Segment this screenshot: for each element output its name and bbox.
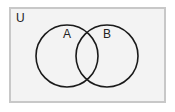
universe-label: U <box>16 11 25 25</box>
universe-rectangle <box>10 8 165 102</box>
set-a-label: A <box>63 27 71 41</box>
venn-svg: U A B <box>0 0 175 112</box>
venn-diagram: U A B <box>0 0 175 112</box>
set-b-label: B <box>103 27 111 41</box>
